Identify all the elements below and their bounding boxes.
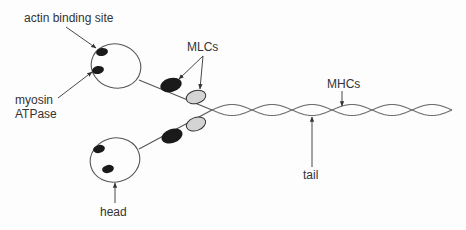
regulatory-light-chain-lower [184,114,207,133]
diagram-canvas: actin binding site myosin ATPase MLCs MH… [0,0,466,230]
atpase-site-lower [92,144,106,155]
arrow-myosin-atpase [58,72,92,98]
arrow-mlc-essential [179,56,203,79]
heavy-chain-strand-2 [212,105,452,116]
regulatory-light-chain-upper [185,88,208,106]
lower-head-outline [85,132,145,187]
label-mhcs: MHCs [327,77,360,91]
actin-binding-site-upper [95,47,108,57]
lower-head [85,132,145,187]
label-tail: tail [303,168,318,182]
arrow-mlc-regulatory [200,56,203,89]
label-actin-binding-site: actin binding site [24,11,114,25]
coiled-coil-tail [212,105,452,116]
actin-binding-site-lower [101,164,115,175]
label-myosin-atpase-line2: ATPase [15,107,57,121]
label-mlcs: MLCs [187,40,218,54]
label-head: head [100,205,127,219]
upper-head [86,38,146,93]
myosin-diagram: actin binding site myosin ATPase MLCs MH… [0,0,466,230]
essential-light-chain-lower [159,126,184,147]
upper-head-outline [86,38,146,93]
arrow-actin-binding-site [66,27,96,48]
label-myosin-atpase-line1: myosin [15,93,53,107]
